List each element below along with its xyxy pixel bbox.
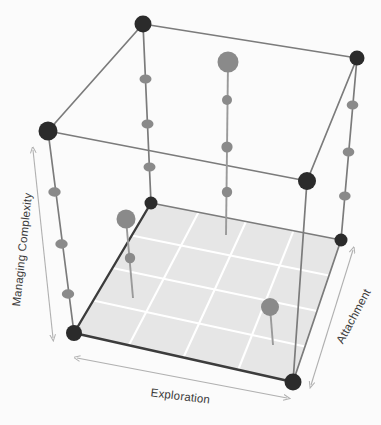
edge-bead <box>347 100 359 109</box>
axis-label-managing-complexity: Managing Complexity <box>10 192 34 307</box>
axis-arrow-managing-complexity <box>33 150 53 338</box>
edge-vert-back-left <box>143 24 151 203</box>
vertex-back-top-left[interactable] <box>135 16 152 33</box>
edge-bead <box>48 187 60 196</box>
pin-bead <box>222 95 232 105</box>
edge-bead <box>144 162 156 171</box>
vertex-back-bot-right[interactable] <box>335 234 348 247</box>
edge-top-right <box>307 58 357 181</box>
edge-bead <box>343 147 355 156</box>
edge-top-left <box>48 24 143 131</box>
diagram-canvas: Managing Complexity Exploration Attachme… <box>0 0 381 425</box>
vertex-back-bot-left[interactable] <box>145 197 158 210</box>
vertex-back-top-right[interactable] <box>350 51 365 66</box>
edge-bead <box>339 191 351 200</box>
pin-center-tall[interactable] <box>218 52 239 236</box>
pin-head <box>218 52 239 73</box>
vertex-front-top-right[interactable] <box>298 172 316 190</box>
pin-bead <box>222 187 232 197</box>
floor-fill <box>74 203 341 382</box>
floor-plane <box>74 203 341 382</box>
edge-bead <box>140 74 152 83</box>
pin-head <box>261 298 279 316</box>
edge-mid-front <box>48 131 307 181</box>
edge-vert-front-left <box>48 131 74 333</box>
edge-bead <box>62 289 74 298</box>
vertex-front-bot-right[interactable] <box>285 374 302 391</box>
vertex-front-top-left[interactable] <box>39 122 58 141</box>
edge-bead <box>55 239 67 248</box>
edge-top-back <box>143 24 357 58</box>
pin-head <box>117 210 136 229</box>
vertex-front-bot-left[interactable] <box>66 325 82 341</box>
axis-label-exploration: Exploration <box>150 386 211 405</box>
pin-bead <box>221 141 232 152</box>
cube-diagram: Managing Complexity Exploration Attachme… <box>0 0 381 425</box>
pin-bead <box>125 253 135 263</box>
edge-bead <box>142 119 154 128</box>
axis-label-attachment: Attachment <box>334 286 373 345</box>
